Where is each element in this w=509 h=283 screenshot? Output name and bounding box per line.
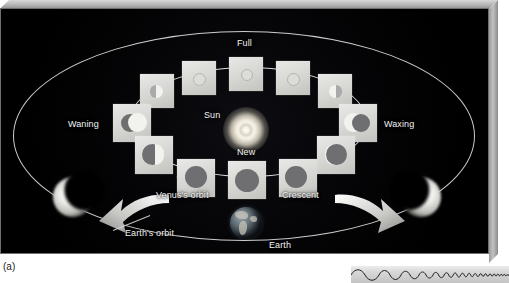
label-venus-orbit: Venus's orbit: [156, 190, 209, 200]
earth-globe-icon: [230, 207, 262, 239]
venus-phase-tile-gibbous-waxing: [276, 61, 310, 95]
venus-lit-half-waning: [128, 113, 147, 132]
venus-disk-gibbous-waxing: [287, 73, 300, 86]
venus-disk-full: [241, 69, 253, 81]
venus-disk-half-waxing: [352, 114, 370, 132]
earth-landmass: [239, 221, 247, 235]
venus-phase-tile-gibbous-waning: [182, 61, 216, 95]
figure-root: Full Sun New Waning Waxing Venus's orbit…: [0, 0, 509, 283]
venus-phase-tile-quarter-waning: [140, 74, 174, 108]
chirp-waveform-icon: [351, 266, 509, 283]
label-earth-orbit: Earth's orbit: [125, 228, 174, 238]
label-crescent: Crescent: [282, 190, 319, 200]
label-waning: Waning: [68, 119, 99, 129]
venus-disk-new-left: [185, 166, 207, 188]
label-sun: Sun: [204, 110, 220, 120]
figure-caption: (a): [3, 261, 15, 272]
venus-disk-crescent-waxing: [326, 144, 347, 165]
venus-disk-new-right: [285, 166, 307, 188]
venus-lit-crescent-waning: [155, 144, 164, 165]
curved-arrow-right-icon: [331, 191, 411, 241]
chirp-waveform-path: [351, 266, 509, 283]
venus-disk-new: [235, 169, 259, 192]
venus-disk-gibbous-waning: [193, 73, 206, 86]
venus-shadow-quarter-waning: [150, 85, 156, 98]
frame-bevel-right: [489, 0, 498, 263]
diagram-frame: Full Sun New Waning Waxing Venus's orbit…: [0, 0, 498, 254]
venus-phase-tile-crescent-waxing: [317, 136, 355, 174]
venus-phase-tile-quarter-waxing: [318, 74, 352, 108]
earth-landmass: [235, 211, 248, 219]
label-waxing: Waxing: [384, 119, 414, 129]
venus-phase-tile-crescent-waning: [135, 136, 173, 174]
venus-phase-tile-full: [229, 57, 263, 91]
label-full: Full: [237, 38, 252, 48]
label-earth: Earth: [269, 240, 291, 250]
label-new: New: [237, 147, 255, 157]
venus-shadow-quarter-waxing: [336, 85, 342, 98]
diagram-panel: Full Sun New Waning Waxing Venus's orbit…: [0, 8, 489, 254]
venus-phase-tile-new: [228, 161, 266, 199]
earth-landmass: [250, 216, 257, 222]
